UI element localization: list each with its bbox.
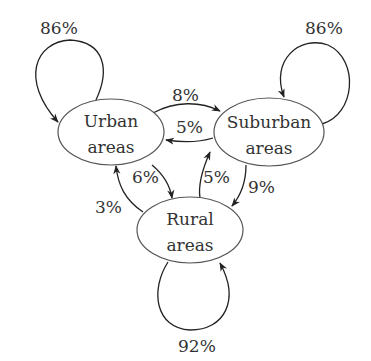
edge-suburban-urban: [166, 138, 213, 142]
edge-suburban-rural: [232, 165, 246, 206]
edge-label-suburban-suburban: 86%: [305, 18, 343, 38]
node-urban-line1: Urban: [84, 111, 138, 131]
node-rural-line1: Rural: [166, 209, 213, 229]
node-urban-line2: areas: [87, 137, 134, 157]
node-suburban-line1: Suburban: [227, 112, 312, 132]
edge-urban-suburban: [153, 104, 220, 113]
edge-label-rural-suburban: 5%: [203, 167, 230, 187]
node-rural: Rural areas: [137, 197, 243, 263]
edge-label-suburban-urban: 5%: [176, 117, 203, 137]
node-suburban-line2: areas: [245, 138, 292, 158]
markov-diagram: 86% 86% 92% 8% 5% 6% 3% 5% 9% Urban area…: [0, 0, 371, 361]
node-suburban: Suburban areas: [214, 98, 324, 166]
edge-label-urban-urban: 86%: [40, 18, 78, 38]
node-rural-line2: areas: [166, 235, 213, 255]
edge-label-urban-rural: 6%: [132, 167, 159, 187]
edge-label-rural-rural: 92%: [178, 336, 216, 356]
edge-label-urban-suburban: 8%: [172, 85, 199, 105]
edge-rural-rural: [158, 262, 229, 330]
edge-label-suburban-rural: 9%: [248, 177, 275, 197]
edge-label-rural-urban: 3%: [95, 197, 122, 217]
node-urban: Urban areas: [58, 99, 164, 165]
